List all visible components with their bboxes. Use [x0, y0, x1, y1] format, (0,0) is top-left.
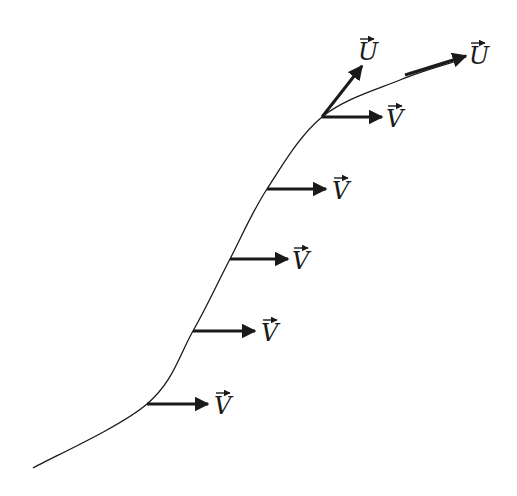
vector-diagram: VVVVV UU — [0, 0, 517, 496]
tangent-vector-u: U — [405, 42, 490, 75]
vector-label: V — [261, 319, 281, 347]
vector-label: V — [292, 247, 312, 275]
vector-label: V — [386, 105, 406, 133]
vector-label: U — [469, 42, 490, 70]
velocity-vector-v: V — [193, 319, 281, 347]
velocity-vector-v: V — [267, 177, 352, 205]
velocity-vector-v: V — [322, 105, 406, 133]
vector-label: V — [332, 177, 352, 205]
diagram-canvas: VVVVV UU — [0, 0, 517, 496]
velocity-vector-v: V — [147, 392, 234, 420]
tangent-vector-u: U — [322, 38, 379, 117]
velocity-vector-v: V — [230, 247, 312, 275]
vector-label: V — [214, 392, 234, 420]
v-vectors: VVVVV — [147, 105, 406, 420]
vector-label: U — [358, 38, 379, 66]
arrow-icon — [322, 66, 362, 117]
arrow-icon — [405, 56, 466, 75]
